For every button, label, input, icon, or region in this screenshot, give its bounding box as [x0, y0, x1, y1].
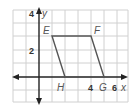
vertex-label-g: G: [99, 82, 107, 93]
y-tick-4: 4: [29, 9, 34, 19]
y-axis-label: y: [41, 8, 48, 19]
x-axis-right-arrow-icon: [121, 74, 128, 80]
grid: [13, 10, 128, 102]
x-axis-label: x: [120, 82, 127, 93]
vertex-label-h: H: [57, 82, 65, 93]
x-tick-4: 4: [88, 83, 93, 93]
vertex-label-e: E: [43, 25, 50, 36]
vertex-label-f: F: [94, 25, 101, 36]
x-tick-6: 6: [112, 83, 117, 93]
y-tick-2: 2: [29, 46, 34, 56]
coordinate-plane: y x 4 2 4 6 E F G H: [0, 0, 138, 111]
